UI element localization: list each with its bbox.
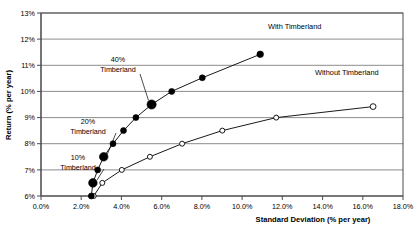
y-tick-label: 9% — [25, 113, 36, 122]
risk-return-scatter-chart: 13% 12% 11% 10% 9% 8% 7% 6% 0.0% 2.0% 4.… — [0, 0, 420, 230]
data-point — [147, 154, 152, 159]
x-tick-label: 18.0% — [393, 202, 414, 211]
x-tick-label: 2.0% — [73, 202, 90, 211]
y-axis-ticks — [37, 13, 41, 196]
data-point — [119, 167, 124, 172]
annotation-40-percent-line1: 40% — [111, 55, 126, 64]
data-point — [133, 115, 139, 121]
x-tick-label: 4.0% — [113, 202, 130, 211]
annotation-20-percent-line1: 20% — [81, 117, 96, 126]
x-tick-label: 8.0% — [194, 202, 211, 211]
x-tick-label: 16.0% — [353, 202, 374, 211]
chart-container: 13% 12% 11% 10% 9% 8% 7% 6% 0.0% 2.0% 4.… — [0, 0, 420, 230]
data-point-emphasis — [99, 153, 108, 162]
x-tick-label: 6.0% — [154, 202, 171, 211]
annotation-40-percent-line2: Timberland — [100, 65, 136, 74]
x-axis-title: Standard Deviation (% per year) — [256, 215, 371, 224]
x-tick-label: 12.0% — [272, 202, 293, 211]
data-point — [274, 115, 279, 120]
y-tick-label: 11% — [21, 61, 35, 70]
y-tick-label: 8% — [25, 139, 36, 148]
annotation-10-percent-line1: 10% — [71, 153, 86, 162]
data-point-emphasis — [147, 100, 156, 109]
data-point — [220, 128, 225, 133]
y-tick-label: 7% — [25, 166, 36, 175]
x-tick-label: 0.0% — [33, 202, 50, 211]
x-tick-label: 14.0% — [312, 202, 333, 211]
annotation-with-timberland: With Timberland — [268, 22, 321, 31]
data-point-emphasis — [89, 179, 98, 188]
y-tick-label: 6% — [25, 192, 36, 201]
data-point — [199, 75, 205, 81]
y-axis-title: Return (% per year) — [4, 70, 13, 141]
data-point — [121, 128, 127, 134]
data-point — [180, 141, 185, 146]
annotation-10-percent-line2: Timberland — [60, 163, 96, 172]
y-tick-label: 13% — [21, 9, 36, 18]
y-tick-label: 12% — [21, 35, 36, 44]
data-point — [169, 88, 175, 94]
x-tick-label: 10.0% — [232, 202, 253, 211]
annotation-20-percent-line2: Timberland — [70, 127, 106, 136]
data-point — [88, 193, 94, 199]
data-point — [100, 180, 105, 185]
y-axis-tick-labels: 13% 12% 11% 10% 9% 8% 7% 6% — [21, 9, 36, 201]
x-axis-tick-labels: 0.0% 2.0% 4.0% 6.0% 8.0% 10.0% 12.0% 14.… — [33, 202, 414, 211]
data-point — [257, 51, 264, 58]
data-point — [370, 104, 376, 110]
y-tick-label: 10% — [21, 87, 36, 96]
annotation-without-timberland: Without Timberland — [315, 68, 379, 77]
